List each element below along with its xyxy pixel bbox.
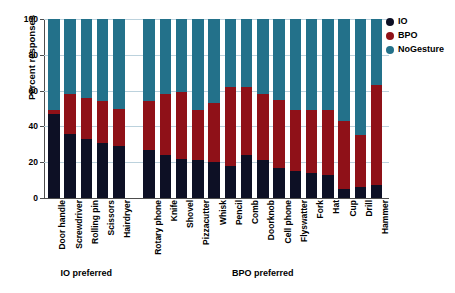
bar-segment-io (176, 159, 188, 198)
bar-segment-bpo (257, 94, 269, 160)
bar-segment-nogesture (160, 19, 172, 94)
x-axis-label: Hairdryer (122, 200, 132, 238)
bar-segment-bpo (371, 85, 383, 185)
bar-stack (290, 19, 302, 198)
bar-stack (338, 19, 350, 198)
x-axis-label: Pizzacutter (201, 200, 211, 245)
bar-segment-nogesture (208, 19, 220, 103)
bar-segment-io (160, 155, 172, 198)
x-axis-label: Flyswatter (299, 200, 309, 242)
x-axis-label: Drill (364, 200, 374, 217)
legend-swatch-icon (386, 18, 394, 26)
bar-segment-bpo (208, 103, 220, 162)
bar-stack (273, 19, 285, 198)
x-axis-label: Door handle (57, 200, 67, 250)
bar-segment-nogesture (64, 19, 76, 94)
bar-segment-io (322, 175, 334, 198)
group-label: BPO preferred (232, 268, 294, 278)
bar-segment-nogesture (143, 19, 155, 101)
y-axis-tick-label: 0 (33, 193, 38, 203)
x-axis-label: Cell phone (283, 200, 293, 243)
legend-item: IO (386, 15, 444, 28)
bar-stack (192, 19, 204, 198)
x-axis-label: Pencil (234, 200, 244, 225)
chart-figure: Percent responses 020406080100 Door hand… (0, 0, 455, 293)
bar-segment-io (290, 171, 302, 198)
bar-segment-bpo (143, 101, 155, 149)
bar-segment-nogesture (48, 19, 60, 110)
legend-swatch-icon (386, 46, 394, 54)
bar-segment-nogesture (192, 19, 204, 110)
legend-swatch-icon (386, 32, 394, 40)
bar-stack (97, 19, 109, 198)
x-axis-label: Shovel (185, 200, 195, 228)
bar-stack (208, 19, 220, 198)
x-axis-label: Doorknob (266, 200, 276, 240)
bar-stack (81, 19, 93, 198)
bar-stack (113, 19, 125, 198)
bar-segment-io (241, 155, 253, 198)
bar-segment-bpo (241, 87, 253, 155)
bar-segment-bpo (306, 110, 318, 173)
bar-segment-io (48, 114, 60, 198)
bar-segment-bpo (97, 101, 109, 142)
bar-segment-io (64, 134, 76, 198)
bar-stack (48, 19, 60, 198)
bar-segment-nogesture (355, 19, 367, 135)
bar-segment-io (81, 139, 93, 198)
bar-segment-nogesture (273, 19, 285, 100)
bar-series-container (44, 19, 389, 198)
bar-stack (257, 19, 269, 198)
x-axis-label: Hammer (380, 200, 390, 234)
bar-stack (322, 19, 334, 198)
legend-label: NoGesture (398, 45, 444, 54)
bar-segment-io (225, 166, 237, 198)
x-axis-label: Screwdriver (74, 200, 84, 249)
bar-segment-nogesture (322, 19, 334, 110)
bar-segment-bpo (81, 98, 93, 139)
legend-label: BPO (398, 31, 418, 40)
bar-segment-nogesture (306, 19, 318, 110)
bar-stack (241, 19, 253, 198)
bar-segment-io (113, 146, 125, 198)
x-axis-label: Scissors (106, 200, 116, 235)
bar-segment-io (273, 168, 285, 198)
x-axis-label: Fork (315, 200, 325, 218)
bar-segment-nogesture (81, 19, 93, 98)
bar-segment-bpo (192, 110, 204, 160)
bar-segment-nogesture (225, 19, 237, 87)
group-label: IO preferred (61, 268, 113, 278)
y-axis-tick-label: 100 (24, 14, 38, 24)
bar-segment-nogesture (257, 19, 269, 94)
bar-stack (371, 19, 383, 198)
x-axis-label: Hat (331, 200, 341, 214)
bar-segment-io (355, 187, 367, 198)
bar-segment-bpo (322, 110, 334, 174)
bar-segment-io (208, 162, 220, 198)
x-axis-labels: Door handleScrewdriverRolling pinScissor… (44, 200, 389, 260)
y-axis-tick-label: 80 (29, 50, 38, 60)
bar-segment-bpo (176, 92, 188, 158)
bar-segment-io (338, 189, 350, 198)
legend-item: BPO (386, 29, 444, 42)
bar-segment-nogesture (113, 19, 125, 109)
bar-segment-bpo (290, 110, 302, 171)
bar-segment-bpo (225, 87, 237, 166)
legend-item: NoGesture (386, 43, 444, 56)
x-axis-label: Rolling pin (90, 200, 100, 244)
x-axis-label: Comb (250, 200, 260, 224)
bar-segment-nogesture (371, 19, 383, 85)
bar-segment-nogesture (97, 19, 109, 101)
bar-segment-io (257, 160, 269, 198)
bar-segment-nogesture (176, 19, 188, 92)
bar-segment-bpo (160, 94, 172, 155)
bar-segment-io (306, 173, 318, 198)
x-axis-label: Cup (348, 200, 358, 217)
bar-segment-bpo (64, 94, 76, 133)
y-axis-tick-label: 40 (29, 121, 38, 131)
x-axis-label: Whisk (218, 200, 228, 225)
legend-label: IO (398, 17, 408, 26)
y-axis-tick-label: 60 (29, 86, 38, 96)
bar-segment-io (143, 150, 155, 198)
bar-stack (306, 19, 318, 198)
